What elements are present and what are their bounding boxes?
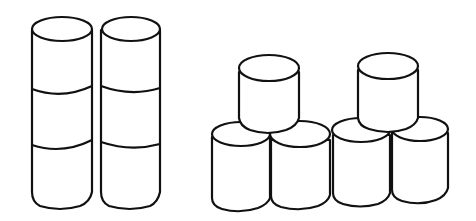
cylinder-figure: [0, 0, 476, 221]
pyramid-left-bottom-left: [212, 122, 270, 211]
pyramid-left-bottom-right: [270, 121, 330, 209]
cylinder-drawing: [0, 0, 476, 221]
pyramid-left-top: [239, 55, 299, 133]
tower-left: [32, 17, 92, 209]
tower-right: [101, 17, 160, 209]
pyramid-right-top: [358, 53, 418, 132]
